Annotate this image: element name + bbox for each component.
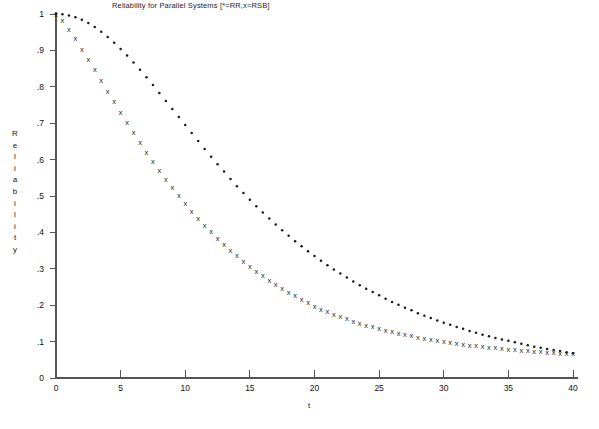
cross-marker: x <box>158 166 162 175</box>
y-tick-label: 0 <box>39 373 44 383</box>
cross-marker: x <box>313 302 317 311</box>
cross-marker: x <box>261 271 265 280</box>
cross-marker: x <box>494 343 498 352</box>
cross-marker: x <box>461 340 465 349</box>
star-marker <box>507 340 510 343</box>
cross-marker: x <box>229 246 233 255</box>
star-marker <box>294 240 297 243</box>
x-tick-label: 25 <box>374 383 384 393</box>
cross-marker: x <box>112 97 116 106</box>
star-marker <box>249 198 252 201</box>
star-marker <box>287 234 290 237</box>
star-marker <box>178 116 181 119</box>
star-marker <box>255 205 258 208</box>
star-marker <box>430 317 433 320</box>
star-marker <box>326 264 329 267</box>
cross-marker: x <box>306 298 310 307</box>
star-marker <box>87 22 90 25</box>
cross-marker: x <box>138 138 142 147</box>
cross-marker: x <box>338 312 342 321</box>
cross-marker: x <box>345 314 349 323</box>
cross-marker: x <box>364 321 368 330</box>
star-marker <box>346 276 349 279</box>
cross-marker: x <box>183 199 187 208</box>
cross-marker: x <box>403 330 407 339</box>
star-marker <box>339 272 342 275</box>
cross-marker: x <box>565 349 569 358</box>
star-marker <box>223 170 226 173</box>
cross-marker: x <box>410 331 414 340</box>
star-marker <box>68 14 71 17</box>
cross-marker: x <box>267 276 271 285</box>
cross-marker: x <box>435 336 439 345</box>
y-tick-label: .5 <box>37 191 44 201</box>
cross-marker: x <box>145 148 149 157</box>
star-marker <box>455 326 458 329</box>
star-marker <box>274 223 277 226</box>
star-marker <box>501 338 504 341</box>
cross-marker: x <box>519 346 523 355</box>
cross-marker: x <box>384 326 388 335</box>
star-marker <box>384 297 387 300</box>
star-marker <box>268 217 271 220</box>
cross-marker: x <box>99 76 103 85</box>
star-marker <box>488 335 491 338</box>
x-tick-label: 30 <box>439 383 449 393</box>
star-marker <box>481 333 484 336</box>
star-marker <box>132 61 135 64</box>
star-marker <box>113 42 116 45</box>
cross-marker: x <box>422 334 426 343</box>
star-marker <box>61 13 64 16</box>
cross-marker: x <box>125 118 129 127</box>
cross-marker: x <box>300 295 304 304</box>
cross-marker: x <box>377 324 381 333</box>
star-marker <box>184 124 187 127</box>
cross-marker: x <box>216 234 220 243</box>
x-tick-label: 5 <box>118 383 123 393</box>
star-marker <box>410 309 413 312</box>
cross-marker: x <box>61 16 65 25</box>
star-marker <box>475 332 478 335</box>
star-marker <box>371 291 374 294</box>
cross-marker: x <box>74 34 78 43</box>
y-tick-label: .8 <box>37 82 44 92</box>
cross-marker: x <box>293 291 297 300</box>
cross-marker: x <box>455 339 459 348</box>
star-marker <box>236 185 239 188</box>
cross-marker: x <box>67 25 71 34</box>
star-marker <box>352 280 355 283</box>
y-tick-label: .1 <box>37 337 44 347</box>
x-tick-label: 0 <box>54 383 59 393</box>
star-marker <box>462 328 465 331</box>
cross-marker: x <box>280 284 284 293</box>
star-marker <box>417 312 420 315</box>
cross-marker: x <box>507 345 511 354</box>
cross-marker: x <box>164 175 168 184</box>
cross-marker: x <box>468 341 472 350</box>
star-marker <box>171 108 174 111</box>
star-marker <box>81 19 84 22</box>
cross-marker: x <box>448 338 452 347</box>
star-marker <box>281 229 284 232</box>
star-marker <box>229 178 232 181</box>
x-tick-label: 40 <box>568 383 578 393</box>
cross-marker: x <box>358 319 362 328</box>
y-tick-label: .4 <box>37 227 44 237</box>
cross-marker: x <box>80 45 84 54</box>
cross-marker: x <box>526 346 530 355</box>
star-marker <box>514 341 517 344</box>
x-tick-label: 20 <box>310 383 320 393</box>
cross-marker: x <box>545 348 549 357</box>
y-axis-ticks: 0.1.2.3.4.5.6.7.8.91 <box>37 9 56 383</box>
cross-marker: x <box>274 280 278 289</box>
cross-marker: x <box>397 329 401 338</box>
star-marker <box>449 324 452 327</box>
star-marker <box>106 36 109 39</box>
star-marker <box>443 321 446 324</box>
cross-marker: x <box>371 322 375 331</box>
star-marker <box>404 306 407 309</box>
star-marker <box>494 337 497 340</box>
cross-marker: x <box>287 288 291 297</box>
cross-marker: x <box>190 207 194 216</box>
star-marker <box>378 294 381 297</box>
